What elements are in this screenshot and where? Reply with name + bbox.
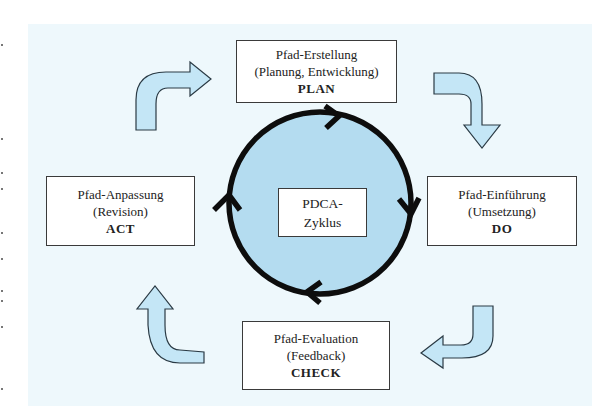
- stage-box-plan: Pfad-Erstellung (Planung, Entwicklung) P…: [236, 40, 397, 103]
- stage-subtitle: (Umsetzung): [428, 203, 576, 220]
- stage-subtitle: (Revision): [47, 203, 194, 220]
- stage-code: PLAN: [237, 80, 396, 97]
- stage-code: CHECK: [243, 364, 389, 381]
- center-label-box: PDCA- Zyklus: [278, 188, 367, 237]
- curved-arrow-act-to-plan-icon: [136, 62, 211, 130]
- stage-box-check: Pfad-Evaluation (Feedback) CHECK: [242, 321, 390, 390]
- stage-title: Pfad-Anpassung: [47, 186, 194, 203]
- stage-box-act: Pfad-Anpassung (Revision) ACT: [46, 176, 195, 246]
- stage-title: Pfad-Erstellung: [237, 46, 396, 63]
- stage-code: ACT: [47, 220, 194, 237]
- stage-subtitle: (Planung, Entwicklung): [237, 63, 396, 80]
- center-label-line2: Zyklus: [279, 213, 366, 232]
- curved-arrow-do-to-check-icon: [421, 306, 493, 368]
- center-label-line1: PDCA-: [279, 194, 366, 213]
- stage-box-do: Pfad-Einführung (Umsetzung) DO: [427, 176, 577, 246]
- stage-subtitle: (Feedback): [243, 347, 389, 364]
- curved-arrow-check-to-act-icon: [137, 286, 204, 363]
- stage-code: DO: [428, 220, 576, 237]
- stage-title: Pfad-Einführung: [428, 186, 576, 203]
- curved-arrow-plan-to-do-icon: [434, 73, 500, 148]
- stage-title: Pfad-Evaluation: [243, 330, 389, 347]
